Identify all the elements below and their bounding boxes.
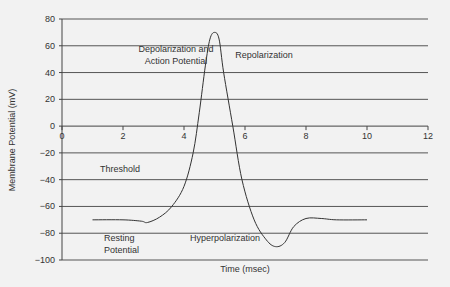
annotation-label: Hyperpolarization <box>190 233 260 243</box>
y-tick-label: 80 <box>45 14 55 24</box>
annotation-label: Resting <box>104 233 135 243</box>
y-tick-label: −100 <box>35 255 55 265</box>
x-tick-label: 10 <box>362 131 372 141</box>
y-tick-label: −20 <box>40 148 55 158</box>
y-tick-label: 40 <box>45 68 55 78</box>
y-tick-label: 0 <box>50 121 55 131</box>
x-tick-label: 8 <box>303 131 308 141</box>
annotation-label: Repolarization <box>235 50 293 60</box>
y-tick-labels: 806040200−20−40−60−80−100 <box>35 14 55 265</box>
x-tick-label: 6 <box>242 131 247 141</box>
x-tick-labels: 024681012 <box>59 131 433 141</box>
y-tick-label: −60 <box>40 201 55 211</box>
annotation-label: Threshold <box>100 164 140 174</box>
x-tick-label: 2 <box>120 131 125 141</box>
y-tick-label: −80 <box>40 228 55 238</box>
annotation-label: Action Potential <box>145 56 208 66</box>
annotations: Depolarization andAction PotentialRepola… <box>100 44 293 255</box>
y-tick-label: −40 <box>40 175 55 185</box>
x-axis-title: Time (msec) <box>220 264 270 274</box>
x-tick-label: 12 <box>423 131 433 141</box>
x-tick-label: 4 <box>181 131 186 141</box>
y-tick-label: 20 <box>45 94 55 104</box>
action-potential-curve <box>93 32 368 246</box>
y-tick-label: 60 <box>45 41 55 51</box>
x-axis <box>62 126 428 130</box>
y-axis-title: Membrane Potential (mV) <box>7 89 17 192</box>
x-tick-label: 0 <box>59 131 64 141</box>
annotation-label: Depolarization and <box>138 44 213 54</box>
annotation-label: Potential <box>104 245 139 255</box>
action-potential-chart: 806040200−20−40−60−80−100 024681012 Depo… <box>0 0 450 287</box>
